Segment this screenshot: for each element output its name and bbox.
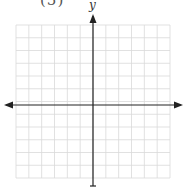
- y-axis: [90, 14, 97, 186]
- x-axis-left-arrow-icon: [4, 102, 13, 109]
- x-axis-right-arrow-icon: [174, 102, 183, 109]
- coordinate-plane[interactable]: [0, 0, 187, 188]
- y-axis-up-arrow-icon: [90, 14, 97, 23]
